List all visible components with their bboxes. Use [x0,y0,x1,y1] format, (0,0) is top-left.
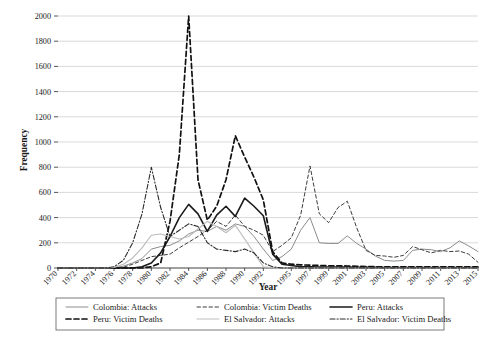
y-tick-label: 600 [39,188,51,197]
y-tick-label: 200 [39,239,51,248]
x-tick-label: 1997 [293,269,311,287]
x-tick-label: 2015 [461,269,479,287]
y-tick-label: 1200 [35,113,51,122]
y-tick-label: 800 [39,163,51,172]
x-tick-label: 1995 [275,269,293,287]
x-tick-label: 2001 [331,269,349,287]
x-tick-label: 2009 [405,269,423,287]
y-axis-ticks: 0200400600800100012001400160018002000 [35,12,58,273]
gridlines [58,16,478,243]
series-line-1 [58,166,478,268]
x-tick-label: 1986 [191,269,209,287]
x-tick-label: 2013 [443,269,461,287]
x-tick-label: 1980 [135,269,153,287]
x-tick-label: 2005 [368,269,386,287]
legend-label-2: Peru: Attacks [357,302,404,312]
x-tick-label: 2007 [387,269,405,287]
legend-label-1: Colombia: Victim Deaths [224,302,312,312]
x-axis-title: Year [259,282,278,292]
x-tick-label: 2011 [424,269,442,287]
x-tick-label: 2003 [349,269,367,287]
y-tick-label: 400 [39,214,51,223]
x-tick-label: 1978 [116,269,134,287]
y-axis-title: Frequency [19,128,29,171]
y-tick-label: 2000 [35,12,51,21]
series-line-2 [58,198,478,268]
x-tick-label: 1984 [172,269,190,287]
x-tick-label: 1976 [97,269,115,287]
y-tick-label: 1600 [35,62,51,71]
x-tick-label: 1988 [209,269,227,287]
legend-label-4: El Salvador: Attacks [224,314,295,324]
legend-label-0: Colombia: Attacks [93,302,158,312]
legend-label-5: El Salvador: Victim Deaths [357,314,452,324]
legend-label-3: Peru: Victim Deaths [93,314,163,324]
x-tick-label: 1974 [79,269,97,287]
x-tick-label: 1990 [228,269,246,287]
y-tick-label: 1400 [35,88,51,97]
x-tick-label: 1999 [312,269,330,287]
frequency-by-year-chart: 0200400600800100012001400160018002000 19… [0,0,490,342]
x-tick-label: 1970 [41,269,59,287]
x-tick-label: 1982 [153,269,171,287]
legend: Colombia: AttacksColombia: Victim Deaths… [66,302,452,324]
x-tick-label: 1972 [60,269,78,287]
y-tick-label: 1000 [35,138,51,147]
y-tick-label: 1800 [35,37,51,46]
